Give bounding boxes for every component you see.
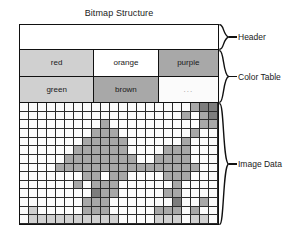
image-data-pixel — [38, 146, 47, 155]
image-data-pixel — [83, 146, 92, 155]
image-data-pixel — [155, 164, 164, 173]
image-data-pixel — [92, 138, 101, 147]
image-data-pixel — [128, 172, 137, 181]
image-data-pixel — [191, 138, 200, 147]
image-data-pixel — [83, 120, 92, 129]
image-data-pixel — [101, 120, 110, 129]
image-data-pixel — [29, 189, 38, 198]
image-data-pixel — [92, 146, 101, 155]
image-data-pixel — [200, 146, 209, 155]
image-data-pixel — [200, 172, 209, 181]
color-table-cell-red: red — [20, 50, 93, 76]
image-data-pixel — [164, 112, 173, 121]
image-data-pixel — [20, 198, 29, 207]
image-data-pixel — [182, 129, 191, 138]
image-data-pixel — [155, 103, 164, 112]
image-data-pixel — [119, 146, 128, 155]
image-data-pixel — [101, 207, 110, 216]
image-data-pixel — [155, 181, 164, 190]
image-data-pixel — [119, 172, 128, 181]
image-data-pixel — [101, 215, 110, 224]
image-data-pixel — [29, 172, 38, 181]
image-data-pixel — [173, 138, 182, 147]
image-data-pixel — [83, 189, 92, 198]
image-data-pixel — [20, 189, 29, 198]
image-data-pixel — [74, 198, 83, 207]
image-data-pixel — [83, 172, 92, 181]
image-data-pixel — [110, 120, 119, 129]
image-data-pixel — [191, 198, 200, 207]
image-data-pixel — [191, 120, 200, 129]
image-data-pixel — [74, 112, 83, 121]
image-data-pixel — [20, 207, 29, 216]
image-data-pixel — [101, 198, 110, 207]
image-data-pixel — [155, 207, 164, 216]
image-data-pixel — [173, 207, 182, 216]
image-data-pixel — [29, 120, 38, 129]
image-data-pixel — [119, 164, 128, 173]
image-data-pixel — [146, 155, 155, 164]
image-data-pixel — [164, 103, 173, 112]
image-data-pixel — [182, 172, 191, 181]
image-data-pixel — [209, 189, 218, 198]
image-data-pixel — [20, 155, 29, 164]
image-data-pixel — [101, 164, 110, 173]
image-data-pixel — [209, 215, 218, 224]
image-data-pixel — [74, 146, 83, 155]
image-data-pixel — [74, 189, 83, 198]
image-data-pixel — [182, 189, 191, 198]
image-data-pixel — [29, 215, 38, 224]
image-data-pixel — [173, 189, 182, 198]
image-data-pixel — [110, 112, 119, 121]
image-data-pixel — [74, 129, 83, 138]
image-data-pixel — [191, 112, 200, 121]
image-data-pixel — [29, 129, 38, 138]
section-label-header: Header — [238, 32, 266, 42]
image-data-pixel — [56, 112, 65, 121]
image-data-pixel — [92, 198, 101, 207]
image-data-pixel — [173, 103, 182, 112]
image-data-pixel — [155, 215, 164, 224]
image-data-pixel — [74, 207, 83, 216]
image-data-pixel — [137, 129, 146, 138]
image-data-pixel — [47, 164, 56, 173]
image-data-pixel — [83, 103, 92, 112]
image-data-pixel — [173, 181, 182, 190]
image-data-pixel — [164, 198, 173, 207]
image-data-pixel — [56, 198, 65, 207]
image-data-pixel — [83, 155, 92, 164]
image-data-pixel — [119, 138, 128, 147]
image-data-pixel — [110, 207, 119, 216]
page-title: Bitmap Structure — [19, 8, 219, 18]
image-data-pixel — [74, 120, 83, 129]
image-data-pixel — [92, 164, 101, 173]
image-data-pixel — [92, 172, 101, 181]
image-data-pixel — [110, 198, 119, 207]
image-data-pixel — [191, 215, 200, 224]
image-data-pixel — [155, 146, 164, 155]
color-table-cell-label: red — [51, 58, 63, 67]
image-data-pixel — [101, 129, 110, 138]
image-data-pixel — [92, 215, 101, 224]
image-data-pixel — [29, 103, 38, 112]
image-data-pixel — [20, 181, 29, 190]
image-data-pixel — [92, 155, 101, 164]
image-data-pixel — [38, 207, 47, 216]
image-data-pixel — [29, 138, 38, 147]
image-data-pixel — [65, 215, 74, 224]
image-data-pixel — [173, 172, 182, 181]
image-data-pixel — [47, 146, 56, 155]
image-data-pixel — [101, 138, 110, 147]
color-table-row: green brown ... — [20, 77, 218, 103]
image-data-pixel — [137, 146, 146, 155]
image-data-pixel — [29, 181, 38, 190]
image-data-pixel — [65, 129, 74, 138]
color-table-cell-orange: orange — [93, 50, 158, 76]
image-data-pixel — [182, 146, 191, 155]
image-data-pixel — [110, 215, 119, 224]
image-data-pixel — [92, 129, 101, 138]
image-data-pixel — [137, 198, 146, 207]
color-table-cell-ellipsis: ... — [159, 77, 218, 103]
image-data-pixel — [29, 146, 38, 155]
image-data-pixel — [119, 103, 128, 112]
